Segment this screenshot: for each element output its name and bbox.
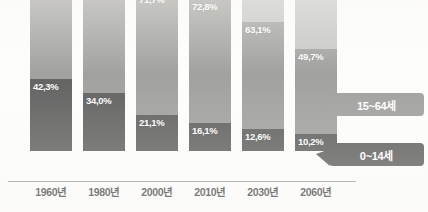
- bar-group: 62,2%34,0%: [83, 0, 125, 151]
- bar-group: 49,7%10,2%: [295, 0, 337, 151]
- bar-segment-value-label: 12,6%: [245, 131, 270, 142]
- bar-stack: 49,7%10,2%: [295, 0, 337, 151]
- bar-segment-value-label: 34,0%: [86, 95, 111, 106]
- stacked-bar-chart: 54,8%42,3%62,2%34,0%71,7%21,1%72,8%16,1%…: [0, 0, 428, 212]
- bar-group: 72,8%16,1%: [189, 0, 231, 151]
- bar-stack: 62,2%34,0%: [83, 0, 125, 151]
- bar-segment-value-label: 42,3%: [33, 81, 58, 92]
- bar-segment: [295, 0, 337, 49]
- x-axis-tick-label: 2000년: [130, 184, 184, 199]
- bar-segment: 72,8%: [189, 0, 231, 123]
- x-axis-tick-label: 1980년: [77, 184, 131, 199]
- callout-label-children: 0~14세: [360, 147, 393, 163]
- bar-segment: [242, 0, 284, 22]
- bar-segment: 62,2%: [83, 0, 125, 93]
- callout-label-working-age: 15~64세: [357, 97, 396, 113]
- bar-segment-value-label: 49,7%: [298, 51, 323, 62]
- bar-segment-value-label: 63,1%: [245, 24, 270, 35]
- x-axis-tick-label: 2060년: [289, 184, 343, 199]
- bar-segment-value-label: 16,1%: [192, 125, 217, 136]
- bar-segment: 54,8%: [30, 0, 72, 79]
- bar-segment: 12,6%: [242, 129, 284, 151]
- callout-tail-working-age: [316, 99, 330, 116]
- callout-working-age: 15~64세: [329, 93, 424, 116]
- bar-stack: 54,8%42,3%: [30, 0, 72, 151]
- bar-group: 54,8%42,3%: [30, 0, 72, 151]
- bar-segment: 34,0%: [83, 93, 125, 151]
- bar-group: 63,1%12,6%: [242, 0, 284, 151]
- x-axis-tick-labels: 1960년1980년2000년2010년2030년2060년: [0, 184, 428, 208]
- bar-stack: 63,1%12,6%: [242, 0, 284, 151]
- callout-children: 0~14세: [329, 143, 424, 166]
- x-axis-tick-label: 2010년: [183, 184, 237, 199]
- x-axis-tick-label: 2030년: [236, 184, 290, 199]
- bar-segment: 16,1%: [189, 123, 231, 151]
- bar-stack: 71,7%21,1%: [136, 0, 178, 151]
- bar-stack: 72,8%16,1%: [189, 0, 231, 151]
- bar-segment: 71,7%: [136, 0, 178, 115]
- bar-segment: 49,7%: [295, 49, 337, 134]
- bar-segment-value-label: 21,1%: [139, 117, 164, 128]
- bar-segment-value-label: 10,2%: [298, 136, 323, 147]
- bar-segment: 21,1%: [136, 115, 178, 151]
- x-axis-line: [8, 181, 356, 182]
- callout-tail-children: [316, 149, 330, 166]
- bar-segment-value-label: 71,7%: [139, 0, 164, 5]
- bar-segment: 42,3%: [30, 79, 72, 151]
- bar-group: 71,7%21,1%: [136, 0, 178, 151]
- bar-segment-value-label: 72,8%: [192, 1, 217, 12]
- x-axis-tick-label: 1960년: [24, 184, 78, 199]
- bar-segment: 63,1%: [242, 22, 284, 130]
